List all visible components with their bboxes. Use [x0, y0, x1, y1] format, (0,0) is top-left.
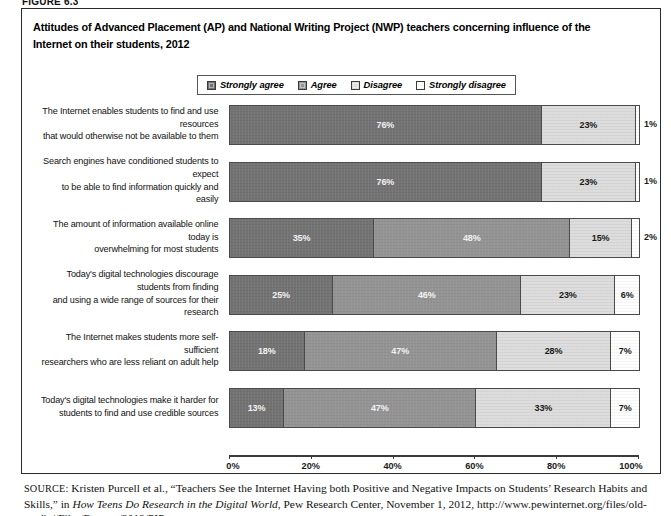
- source-prefix: SOURCE:: [24, 483, 68, 494]
- segment-outside-label: 1%: [644, 162, 657, 200]
- segment-value-label: 48%: [463, 233, 481, 243]
- axis-tick: [638, 455, 639, 459]
- bar-segment-mid[interactable]: 47%: [283, 389, 475, 427]
- axis-tick: [474, 455, 475, 459]
- stacked-bar[interactable]: 76%23%: [229, 162, 640, 202]
- segment-value-label: 25%: [272, 290, 290, 300]
- row-label-line: The amount of information available onli…: [39, 218, 218, 243]
- row-label-line: Today's digital technologies make it har…: [39, 394, 218, 407]
- bar-segment-white[interactable]: 6%: [614, 276, 639, 314]
- bar-segment-white[interactable]: 7%: [610, 389, 639, 427]
- chart-title: Attitudes of Advanced Placement (AP) and…: [33, 19, 621, 52]
- row-label-line: students to find and use credible source…: [39, 407, 218, 420]
- bar-segment-white[interactable]: [635, 106, 639, 144]
- stacked-bar[interactable]: 76%23%: [229, 105, 640, 145]
- legend-swatch-disagree: [351, 81, 360, 90]
- bar-segment-dark[interactable]: 25%: [230, 276, 332, 314]
- segment-value-label: 28%: [545, 346, 563, 356]
- legend-swatch-strongly_agree: [207, 81, 216, 90]
- source-note: SOURCE: Kristen Purcell et al., “Teacher…: [24, 481, 664, 516]
- row-category-label: Today's digital technologies discourage …: [39, 268, 229, 318]
- legend-swatch-agree: [298, 81, 307, 90]
- bar-segment-light[interactable]: 28%: [496, 332, 611, 370]
- bar-area: 76%23%1%: [229, 105, 638, 143]
- axis-tick-label: 80%: [547, 461, 565, 471]
- segment-value-label: 76%: [377, 177, 395, 187]
- stacked-bar[interactable]: 18%47%28%7%: [229, 331, 640, 371]
- bar-area: 35%48%15%2%: [229, 218, 638, 256]
- bar-segment-dark[interactable]: 18%: [230, 332, 304, 370]
- chart-row: The Internet enables students to find an…: [33, 105, 649, 143]
- bar-segment-dark[interactable]: 76%: [230, 163, 541, 201]
- row-category-label: The Internet enables students to find an…: [39, 105, 229, 143]
- legend-label: Strongly agree: [220, 80, 284, 90]
- bar-segment-light[interactable]: 15%: [569, 219, 630, 257]
- segment-value-label: 47%: [371, 403, 389, 413]
- segment-value-label: 23%: [580, 177, 598, 187]
- row-category-label: The amount of information available onli…: [39, 218, 229, 256]
- axis-tick-label: 60%: [465, 461, 483, 471]
- chart-row: Search engines have conditioned students…: [33, 162, 649, 200]
- bar-segment-mid[interactable]: 48%: [373, 219, 569, 257]
- x-axis: 0%20%40%60%80%100%: [229, 455, 639, 457]
- segment-value-label: 18%: [258, 346, 276, 356]
- row-category-label: Search engines have conditioned students…: [39, 155, 229, 205]
- row-category-label: Today's digital technologies make it har…: [39, 394, 229, 419]
- bar-segment-light[interactable]: 23%: [520, 276, 614, 314]
- row-label-line: that would otherwise not be available to…: [39, 130, 218, 143]
- legend-label: Agree: [311, 80, 337, 90]
- legend-label: Strongly disagree: [429, 80, 506, 90]
- segment-value-label: 13%: [248, 403, 266, 413]
- bar-area: 13%47%33%7%: [229, 388, 638, 426]
- chart-plot-area: The Internet enables students to find an…: [33, 105, 649, 457]
- axis-tick: [556, 455, 557, 459]
- chart-row: Today's digital technologies make it har…: [33, 388, 649, 426]
- segment-value-label: 6%: [621, 290, 634, 300]
- bar-area: 76%23%1%: [229, 162, 638, 200]
- bar-area: 18%47%28%7%: [229, 331, 638, 369]
- row-label-line: The Internet enables students to find an…: [39, 105, 218, 130]
- bar-segment-light[interactable]: 23%: [541, 163, 635, 201]
- stacked-bar[interactable]: 25%46%23%6%: [229, 275, 640, 315]
- stacked-bar[interactable]: 35%48%15%: [229, 218, 640, 258]
- source-italic-2: Teens Do Research in the Digital World: [97, 498, 278, 510]
- segment-outside-label: 1%: [644, 105, 657, 143]
- chart-row: The amount of information available onli…: [33, 218, 649, 256]
- row-label-line: The Internet makes students more self-su…: [39, 331, 218, 356]
- segment-value-label: 35%: [293, 233, 311, 243]
- row-category-label: The Internet makes students more self-su…: [39, 331, 229, 369]
- legend-item-disagree: Disagree: [351, 80, 402, 90]
- bar-segment-light[interactable]: 23%: [541, 106, 635, 144]
- legend-item-strongly_agree: Strongly agree: [207, 80, 284, 90]
- axis-tick: [311, 455, 312, 459]
- bar-segment-mid[interactable]: 47%: [304, 332, 496, 370]
- row-label-line: Search engines have conditioned students…: [39, 155, 218, 180]
- axis-tick-label: 20%: [302, 461, 320, 471]
- segment-outside-label: 2%: [644, 218, 657, 256]
- bar-segment-dark[interactable]: 13%: [230, 389, 283, 427]
- row-label-line: to be able to find information quickly a…: [39, 181, 218, 206]
- segment-value-label: 76%: [377, 120, 395, 130]
- bar-segment-dark[interactable]: 76%: [230, 106, 541, 144]
- figure-container: Attitudes of Advanced Placement (AP) and…: [21, 8, 661, 474]
- segment-value-label: 46%: [418, 290, 436, 300]
- source-italic-1: How: [72, 498, 94, 510]
- row-label-line: Today's digital technologies discourage …: [39, 268, 218, 293]
- segment-value-label: 7%: [619, 403, 632, 413]
- segment-value-label: 23%: [559, 290, 577, 300]
- legend-swatch-strongly_disagree: [416, 81, 425, 90]
- bar-segment-white[interactable]: [631, 219, 639, 257]
- legend-item-agree: Agree: [298, 80, 337, 90]
- bar-segment-dark[interactable]: 35%: [230, 219, 373, 257]
- stacked-bar[interactable]: 13%47%33%7%: [229, 388, 640, 428]
- bar-segment-white[interactable]: 7%: [610, 332, 639, 370]
- bar-segment-white[interactable]: [635, 163, 639, 201]
- axis-tick-label: 0%: [226, 461, 239, 471]
- segment-value-label: 33%: [535, 403, 553, 413]
- legend-label: Disagree: [364, 80, 402, 90]
- bar-segment-light[interactable]: 33%: [475, 389, 610, 427]
- figure-label: FIGURE 6.3: [22, 0, 78, 6]
- legend-item-strongly_disagree: Strongly disagree: [416, 80, 506, 90]
- chart-row: The Internet makes students more self-su…: [33, 331, 649, 369]
- bar-segment-mid[interactable]: 46%: [332, 276, 520, 314]
